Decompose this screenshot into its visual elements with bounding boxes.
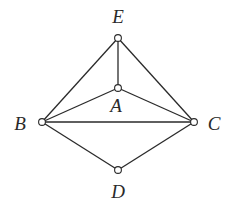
node-a-icon [115, 85, 122, 92]
edge-a-b [42, 88, 118, 122]
edge-b-d [42, 122, 118, 170]
edge-d-c [118, 122, 194, 170]
node-label-c: C [208, 113, 221, 134]
edge-a-c [118, 88, 194, 122]
edge-e-c [118, 38, 194, 122]
node-label-a: A [108, 95, 122, 116]
node-b-icon [39, 119, 46, 126]
edge-e-b [42, 38, 118, 122]
node-e-icon [115, 35, 122, 42]
node-label-e: E [111, 6, 124, 27]
node-label-b: B [14, 113, 26, 134]
graph-diagram: ABCDE [0, 0, 236, 213]
node-c-icon [191, 119, 198, 126]
node-label-d: D [110, 181, 125, 202]
node-d-icon [115, 167, 122, 174]
